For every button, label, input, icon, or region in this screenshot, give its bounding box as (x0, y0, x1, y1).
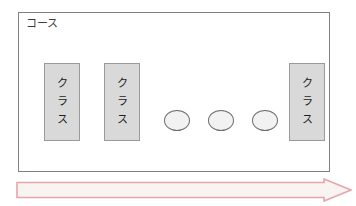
class-box-left-char-1: ク (57, 75, 68, 93)
class-box-left: ク ラ ス (44, 63, 80, 141)
class-box-second-char-2: ラ (117, 93, 128, 111)
class-box-right: ク ラ ス (289, 63, 325, 141)
course-title-label: コース (26, 17, 58, 31)
node-ellipse-1 (164, 110, 190, 131)
class-box-right-char-3: ス (302, 111, 313, 129)
node-ellipse-2 (208, 110, 234, 131)
class-box-right-char-2: ラ (302, 93, 313, 111)
course-frame: コース ク ラ ス ク ラ ス ク ラ ス (18, 12, 330, 172)
class-box-left-char-2: ラ (57, 93, 68, 111)
node-ellipse-3 (252, 110, 278, 131)
diagram-canvas: コース ク ラ ス ク ラ ス ク ラ ス (0, 0, 356, 206)
direction-arrow (16, 178, 352, 202)
class-box-left-char-3: ス (57, 111, 68, 129)
class-box-second-char-1: ク (117, 75, 128, 93)
class-box-second: ク ラ ス (104, 63, 140, 141)
class-box-right-char-1: ク (302, 75, 313, 93)
class-box-second-char-3: ス (117, 111, 128, 129)
direction-arrow-icon (16, 178, 352, 202)
